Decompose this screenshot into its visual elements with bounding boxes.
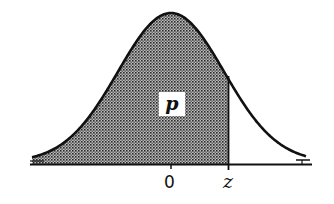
shaded-area-p (32, 13, 229, 164)
tick-label-zero: 0 (164, 172, 175, 192)
tick-label-z: z (223, 170, 233, 192)
area-label-p: p (159, 92, 185, 116)
